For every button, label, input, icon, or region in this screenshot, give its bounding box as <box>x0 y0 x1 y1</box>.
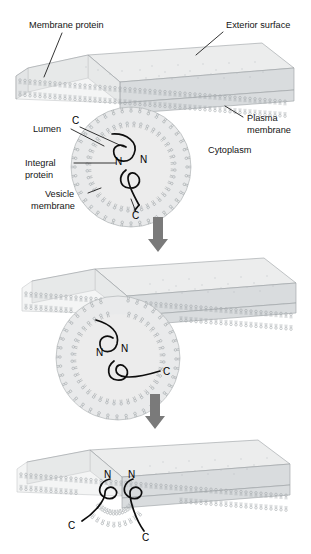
terminus-n-label: N <box>121 343 128 354</box>
figure-canvas: C N N C Membrane protein Exterior surfac… <box>0 0 311 554</box>
exocytosis-figure: C N N C Membrane protein Exterior surfac… <box>0 0 311 554</box>
label-plasma-membrane-2: membrane <box>247 125 291 135</box>
terminus-n-label: N <box>128 469 135 480</box>
terminus-c-label: C <box>72 115 79 126</box>
fusing-vesicle-2 <box>56 296 180 420</box>
terminus-n-label: N <box>104 469 111 480</box>
transport-vesicle-1 <box>71 107 191 227</box>
terminus-c-label: C <box>68 520 75 531</box>
terminus-n-label: N <box>96 347 103 358</box>
label-vesicle-membrane-2: membrane <box>31 201 75 211</box>
label-membrane-protein: Membrane protein <box>29 20 104 30</box>
terminus-n-label: N <box>140 154 147 165</box>
terminus-c-label: C <box>163 366 170 377</box>
terminus-c-label: C <box>142 532 149 543</box>
terminus-n-label: N <box>115 156 122 167</box>
label-integral-protein-1: Integral <box>25 158 56 168</box>
label-vesicle-membrane-1: Vesicle <box>45 189 74 199</box>
label-integral-protein-2: protein <box>25 170 53 180</box>
label-cytoplasm: Cytoplasm <box>208 145 252 155</box>
label-lumen: Lumen <box>33 124 61 134</box>
label-plasma-membrane-1: Plasma <box>247 113 279 123</box>
label-exterior-surface: Exterior surface <box>226 20 290 30</box>
